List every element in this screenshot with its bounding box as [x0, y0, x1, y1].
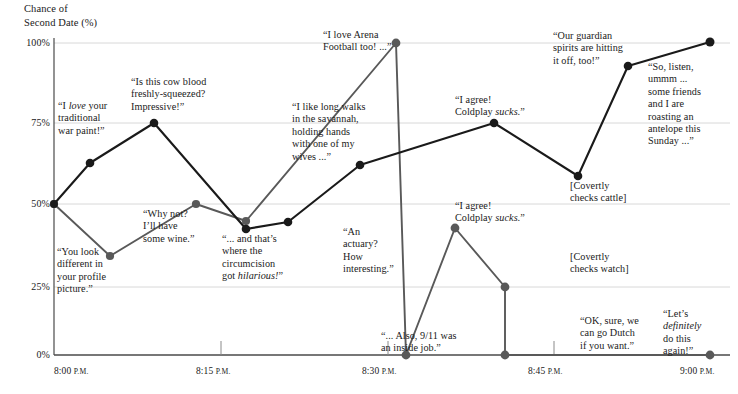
data-point [192, 200, 200, 208]
data-point [242, 217, 250, 225]
annotation-profile-picture: “You look different in your profile pict… [57, 246, 145, 296]
data-point [706, 38, 715, 47]
x-tick-800-period: P.M. [74, 367, 89, 376]
x-tick-815-time: 8:15 [196, 366, 216, 376]
data-point [284, 218, 293, 227]
chart-container: Chance of Second Date (%) 100% 75% 50% 2… [0, 0, 738, 394]
x-tick-815-period: P.M. [216, 367, 231, 376]
x-tick-800: 8:00 P.M. [54, 366, 89, 376]
annotation-roasting-antelope: “So, listen, ummm ... some friends and I… [648, 61, 724, 148]
x-tick-830-period: P.M. [382, 367, 397, 376]
annotation-definitely-again: “Let’s definitely do this again!” [663, 308, 729, 358]
annotation-checks-cattle: [Covertly checks cattle] [570, 180, 648, 205]
annotation-arena-football: “I love Arena Football too! ...” [323, 29, 427, 54]
data-point [490, 119, 499, 128]
annotation-coldplay-upper: “I agree! Coldplay sucks.” [455, 94, 551, 119]
x-tick-900-period: P.M. [700, 367, 715, 376]
annotation-inside-job: “... Also, 9/11 was an inside job.” [381, 330, 501, 355]
x-tick-830: 8:30 P.M. [362, 366, 397, 376]
annotation-actuary: “An actuary? How interesting.” [343, 226, 407, 276]
x-tick-845-time: 8:45 [528, 366, 548, 376]
x-tick-900-time: 9:00 [680, 366, 700, 376]
annotation-long-walks: “I like long walks in the savannah, hold… [292, 101, 404, 163]
data-point [150, 119, 159, 128]
annotation-go-dutch: “OK, sure, we can go Dutch if you want.” [580, 315, 660, 352]
data-point [501, 351, 510, 360]
annotation-coldplay-lower: “I agree! Coldplay sucks.” [455, 200, 551, 225]
data-point [574, 172, 583, 181]
x-tick-815: 8:15 P.M. [196, 366, 231, 376]
annotation-checks-watch: [Covertly checks watch] [570, 251, 648, 276]
annotation-circumcision: “... and that’s where the circumcision g… [222, 233, 320, 283]
x-tick-830-time: 8:30 [362, 366, 382, 376]
data-point [50, 200, 58, 208]
x-tick-900: 9:00 P.M. [680, 366, 715, 376]
data-point [242, 225, 251, 234]
annotation-cow-blood: “Is this cow blood freshly-squeezed? Imp… [131, 76, 251, 113]
x-tick-845: 8:45 P.M. [528, 366, 563, 376]
x-tick-845-period: P.M. [548, 367, 563, 376]
data-point [501, 283, 510, 292]
data-point [86, 159, 95, 168]
data-point [451, 224, 460, 233]
annotation-some-wine: “Why not? I’ll have some wine.” [143, 208, 223, 245]
x-tick-800-time: 8:00 [54, 366, 74, 376]
